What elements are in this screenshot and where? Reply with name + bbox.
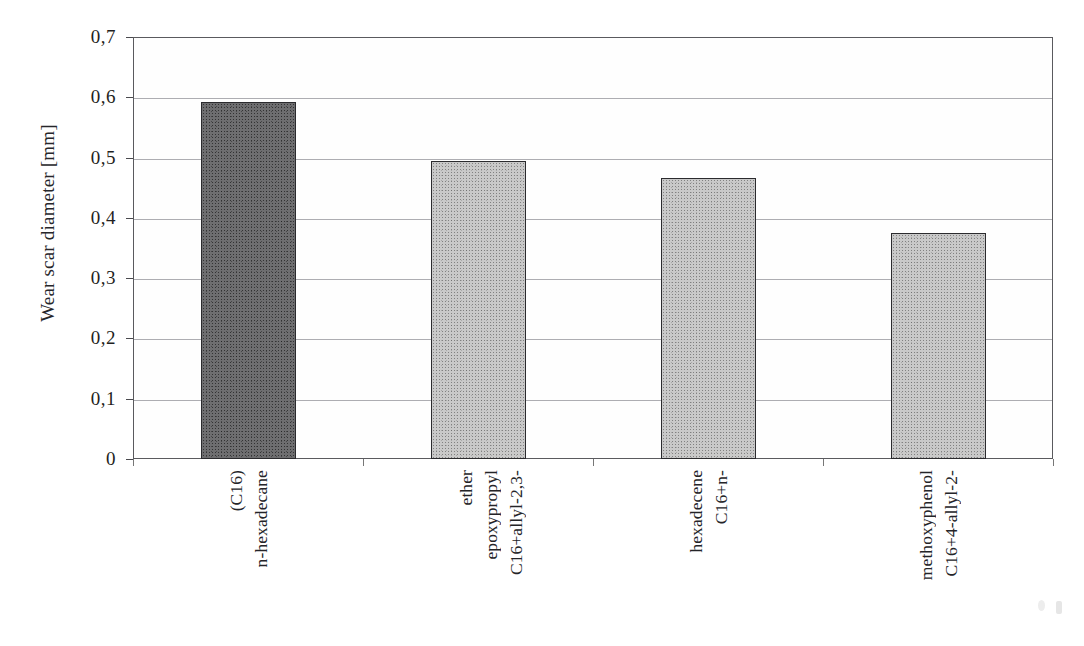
category-label-line: epoxypropyl [479,470,504,560]
x-axis-category-label: C16+allyl-2,3-epoxypropylether [454,470,529,640]
category-label-line: hexadecene [684,470,709,553]
x-axis-category-labels: n-hexadecane(C16)C16+allyl-2,3-epoxyprop… [0,0,1084,646]
category-label-line: methoxyphenol [914,470,939,580]
category-label-line: C16+allyl-2,3- [504,470,529,575]
category-label-line: C16+4-allyl-2- [939,470,964,577]
category-label-line: n-hexadecane [249,470,274,567]
x-axis-category-label: C16+n-hexadecene [684,470,734,640]
category-label-line: (C16) [224,470,249,511]
bar-chart: Wear scar diameter [mm] 00,10,20,30,40,5… [0,0,1084,646]
category-label-line: ether [454,470,479,505]
x-axis-category-label: C16+4-allyl-2-methoxyphenol [914,470,964,640]
category-label-line: C16+n- [709,470,734,524]
x-axis-category-label: n-hexadecane(C16) [224,470,274,640]
